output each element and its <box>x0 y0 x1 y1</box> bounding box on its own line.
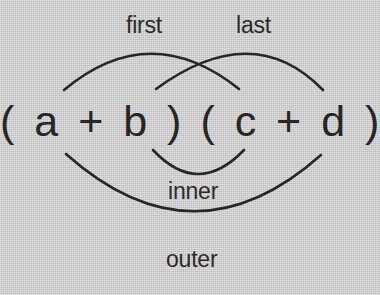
left-binomial: ( a + b ) <box>0 97 185 145</box>
inner-arc <box>153 150 244 174</box>
binomial-expression: ( a + b )( c + d ) <box>0 96 380 146</box>
foil-diagram: ( a + b )( c + d ) first last inner oute… <box>0 0 380 295</box>
arc-label-inner: inner <box>168 180 218 203</box>
arc-label-last: last <box>236 14 271 37</box>
right-binomial: ( c + d ) <box>200 97 380 145</box>
arc-label-first: first <box>126 14 162 37</box>
arc-label-outer: outer <box>166 248 217 271</box>
